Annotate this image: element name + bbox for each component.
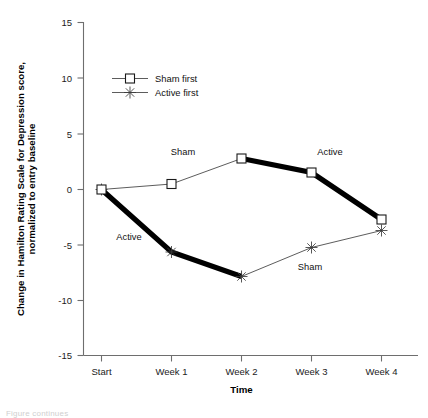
- x-axis-title: Time: [230, 384, 253, 395]
- legend-asterisk-icon: [124, 87, 136, 99]
- legend-label: Sham first: [155, 73, 198, 84]
- legend-square-icon: [126, 74, 135, 83]
- x-tick-label: Week 4: [365, 366, 397, 377]
- legend-label: Active first: [155, 87, 199, 98]
- x-tick-label: Week 1: [155, 366, 187, 377]
- x-tick-label: Week 3: [295, 366, 327, 377]
- y-tick-label: -10: [58, 295, 72, 306]
- series-sham-first: [97, 154, 386, 224]
- axes-group: [84, 22, 419, 356]
- sham-first-marker: [167, 180, 176, 189]
- y-tick-label: 10: [61, 73, 72, 84]
- active-first-line: [102, 190, 382, 277]
- x-tick-label: Week 2: [225, 366, 257, 377]
- y-axis-title-line1: Change in Hamilton Rating Scale for Depr…: [15, 62, 26, 316]
- active-first-marker: [236, 271, 248, 283]
- y-tick-label: -15: [58, 350, 72, 361]
- active-first-marker: [376, 225, 388, 237]
- legend-item-active-first[interactable]: Active first: [112, 87, 199, 99]
- sham-first-marker: [307, 168, 316, 177]
- sham-first-marker: [377, 215, 386, 224]
- x-tick-label: Start: [91, 366, 111, 377]
- y-tick-group: 15 10 5 0 -5 -10 -15: [58, 17, 83, 361]
- annotation-sham-upper: Sham: [171, 147, 196, 157]
- chart-legend: Sham first Active first: [112, 73, 199, 99]
- y-tick-label: 0: [67, 184, 72, 195]
- annotation-active-upper: Active: [317, 147, 342, 157]
- active-first-marker: [306, 242, 318, 254]
- sham-first-marker: [237, 154, 246, 163]
- y-tick-label: 5: [67, 129, 72, 140]
- x-tick-group: Start Week 1 Week 2 Week 3 Week 4: [91, 356, 397, 378]
- figure-footnote: Figure continues: [6, 409, 68, 418]
- legend-item-sham-first[interactable]: Sham first: [112, 73, 198, 84]
- sham-first-marker: [97, 185, 106, 194]
- annotation-sham-lower: Sham: [298, 262, 323, 272]
- y-axis-title-line2: normalized to entry baseline: [26, 123, 37, 254]
- y-tick-label: -5: [64, 240, 72, 251]
- annotation-group: Sham Active Active Sham: [116, 147, 342, 272]
- y-tick-label: 15: [61, 17, 72, 28]
- annotation-active-lower: Active: [116, 232, 141, 242]
